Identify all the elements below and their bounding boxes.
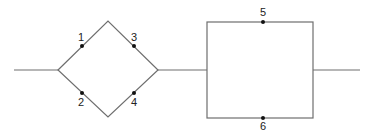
node-4-label: 4	[131, 96, 137, 108]
parallel-rectangle	[207, 22, 313, 118]
node-4: 4	[131, 91, 137, 108]
node-1-dot	[80, 44, 84, 48]
node-2-dot	[80, 91, 84, 95]
node-2: 2	[78, 91, 84, 108]
node-5-label: 5	[260, 6, 266, 18]
bridge-diamond	[58, 21, 158, 117]
node-1: 1	[78, 31, 84, 48]
node-3-label: 3	[131, 31, 137, 43]
node-1-label: 1	[78, 31, 84, 43]
node-5-dot	[261, 20, 265, 24]
node-6-label: 6	[260, 120, 266, 132]
node-5: 5	[260, 6, 266, 24]
reliability-diagram: 1 2 3 4 5 6	[0, 0, 371, 136]
node-4-dot	[132, 91, 136, 95]
node-3-dot	[132, 44, 136, 48]
node-2-label: 2	[78, 96, 84, 108]
node-3: 3	[131, 31, 137, 48]
